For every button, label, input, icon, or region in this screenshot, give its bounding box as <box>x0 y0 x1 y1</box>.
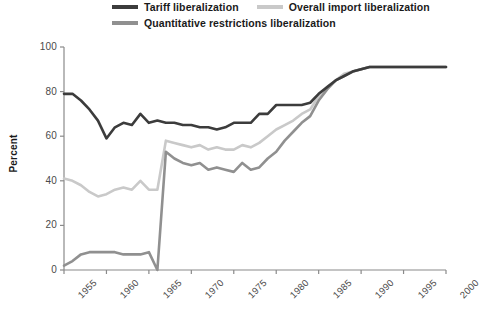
axis-ticks <box>60 47 446 274</box>
series-line-tariff <box>64 67 446 138</box>
axis-lines <box>64 47 446 270</box>
series-line-overall-import <box>64 67 446 196</box>
series-line-quantitative-restrictions <box>64 67 446 270</box>
